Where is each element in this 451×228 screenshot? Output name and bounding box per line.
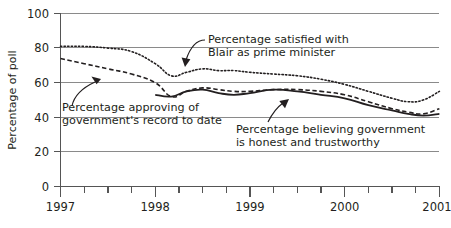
y-tick-label-60: 60	[34, 76, 49, 90]
y-axis-label: Percentage of poll	[6, 50, 19, 149]
annotation-blair-line1: Percentage satisfied with	[208, 33, 349, 46]
y-tick-label-40: 40	[34, 111, 49, 125]
annotation-approval-line1: Percentage approving of	[62, 101, 200, 114]
chart-canvas: 100 80 60 40 20 0 1997 1998 1999 2000 20…	[0, 0, 451, 228]
leader-line-honesty	[268, 103, 283, 122]
annotation-approval-line2: government's record to date	[62, 114, 222, 127]
x-tick-label-1998: 1998	[141, 200, 170, 214]
y-tick-marks	[54, 14, 60, 187]
x-tick-label-2001: 2001	[422, 200, 451, 214]
x-tick-label-1997: 1997	[46, 200, 75, 214]
y-tick-label-0: 0	[42, 180, 49, 194]
annotation-blair-line2: Blair as prime minister	[208, 46, 336, 59]
arrowhead-blair	[182, 58, 191, 67]
arrowhead-honesty	[279, 99, 289, 108]
y-tick-label-80: 80	[34, 41, 49, 55]
poll-line-chart: 100 80 60 40 20 0 1997 1998 1999 2000 20…	[0, 0, 451, 228]
y-tick-label-100: 100	[27, 7, 49, 21]
annotation-honesty-line1: Percentage believing government	[236, 123, 426, 136]
leader-line-blair	[186, 40, 205, 60]
y-tick-label-20: 20	[34, 145, 49, 159]
x-tick-marks	[61, 186, 440, 197]
annotation-honesty-line2: is honest and trustworthy	[236, 136, 380, 149]
x-tick-label-1999: 1999	[235, 200, 264, 214]
x-tick-label-2000: 2000	[330, 200, 359, 214]
